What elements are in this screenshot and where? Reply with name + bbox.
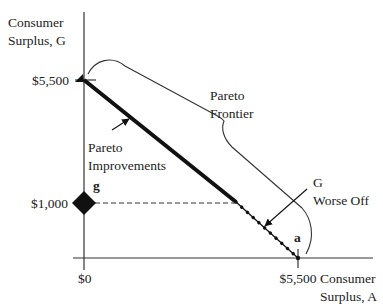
point-a-dot-icon: [296, 256, 300, 260]
triangle-marker-icon: [75, 74, 84, 82]
improvements-label-line1: Pareto: [88, 140, 123, 155]
frontier-brace: [88, 60, 312, 254]
frontier-label-line2: Frontier: [210, 106, 254, 121]
x-axis-label-line1: Consumer: [320, 271, 376, 286]
improvements-label-line2: Improvements: [88, 158, 166, 173]
worse-off-label-line1: G: [313, 175, 323, 190]
y-tick-label-1000: $1,000: [31, 196, 68, 211]
worse-off-label-line2: Worse Off: [313, 193, 370, 208]
y-tick-label-5500: $5,500: [32, 73, 69, 88]
y-axis-label-line2: Surplus, G: [8, 33, 66, 48]
improvements-arrow-icon: [112, 119, 129, 130]
y-axis-label-line1: Consumer: [8, 15, 64, 30]
x-axis-label-line2: Surplus, A: [320, 289, 377, 304]
x-tick-label-0: $0: [78, 271, 92, 286]
point-g-diamond-icon: [72, 191, 96, 215]
pareto-diagram: Consumer Surplus, G $5,500 $1,000 $0 $5,…: [0, 0, 383, 306]
point-a-label: a: [294, 230, 301, 245]
point-g-label: g: [93, 178, 100, 193]
x-tick-label-5500: $5,500: [279, 271, 316, 286]
frontier-label-line1: Pareto: [210, 88, 245, 103]
